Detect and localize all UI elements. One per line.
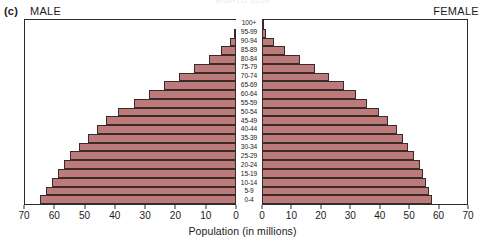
- cropped-top-title: WORLD 2050: [0, 0, 485, 3]
- bar-row: [25, 55, 236, 64]
- bar-row: [262, 38, 467, 47]
- bar-row: [25, 64, 236, 73]
- x-axis-title: Population (in millions): [0, 225, 485, 237]
- female-axis-tick: [291, 205, 292, 209]
- age-group-label: 0-4: [236, 196, 262, 205]
- female-bar: [262, 151, 414, 160]
- male-axis-tick: [236, 205, 237, 209]
- bar-row: [25, 169, 236, 178]
- age-group-label: 20-24: [236, 161, 262, 170]
- bar-row: [262, 55, 467, 64]
- bar-row: [262, 143, 467, 152]
- male-axis-tick-label: 30: [140, 210, 151, 221]
- female-plot-area: [262, 19, 468, 205]
- age-group-label: 35-39: [236, 134, 262, 143]
- bar-row: [262, 160, 467, 169]
- bar-row: [262, 81, 467, 90]
- male-bar: [70, 151, 236, 160]
- male-axis-tick-label: 50: [79, 210, 90, 221]
- figure-panel-letter: (c): [4, 5, 18, 17]
- age-group-label: 75-79: [236, 63, 262, 72]
- bar-row: [262, 187, 467, 196]
- bar-row: [25, 160, 236, 169]
- age-group-label: 40-44: [236, 125, 262, 134]
- female-bar: [262, 29, 266, 38]
- female-axis-tick: [438, 205, 439, 209]
- female-bar: [262, 134, 403, 143]
- female-bar: [262, 64, 315, 73]
- female-axis-tick-label: 20: [315, 210, 326, 221]
- male-bar: [118, 108, 236, 117]
- female-bar: [262, 20, 264, 29]
- female-bar-rows: [262, 20, 467, 204]
- age-group-label: 25-29: [236, 152, 262, 161]
- male-axis-header: MALE: [30, 5, 61, 17]
- bar-row: [262, 64, 467, 73]
- age-group-label: 90-94: [236, 37, 262, 46]
- male-axis-tick: [54, 205, 55, 209]
- female-bar: [262, 46, 285, 55]
- bar-row: [262, 46, 467, 55]
- bar-row: [25, 178, 236, 187]
- bar-row: [25, 29, 236, 38]
- male-axis-tick: [145, 205, 146, 209]
- female-axis-tick: [379, 205, 380, 209]
- bar-row: [25, 187, 236, 196]
- bar-row: [262, 73, 467, 82]
- female-bar: [262, 38, 274, 47]
- age-group-label: 5-9: [236, 187, 262, 196]
- bar-row: [25, 20, 236, 29]
- male-bar: [179, 73, 236, 82]
- male-bar: [97, 125, 236, 134]
- bar-row: [25, 73, 236, 82]
- female-axis-tick-label: 70: [462, 210, 473, 221]
- bar-row: [25, 143, 236, 152]
- female-axis-tick-label: 40: [374, 210, 385, 221]
- male-bar-rows: [25, 20, 236, 204]
- male-bar: [209, 55, 236, 64]
- male-axis-tick-label: 70: [18, 210, 29, 221]
- age-group-label: 95-99: [236, 28, 262, 37]
- bar-row: [262, 29, 467, 38]
- bar-row: [262, 178, 467, 187]
- male-bar: [134, 99, 236, 108]
- male-axis-tick: [24, 205, 25, 209]
- bar-row: [262, 20, 467, 29]
- bar-row: [262, 108, 467, 117]
- female-bar: [262, 125, 397, 134]
- age-group-label: 70-74: [236, 72, 262, 81]
- female-bar: [262, 81, 344, 90]
- female-axis-tick: [262, 205, 263, 209]
- bar-row: [25, 99, 236, 108]
- age-group-label: 30-34: [236, 143, 262, 152]
- age-group-label: 85-89: [236, 46, 262, 55]
- bar-row: [262, 195, 467, 204]
- female-bar: [262, 99, 367, 108]
- male-axis-tick-label: 20: [170, 210, 181, 221]
- male-axis-tick: [114, 205, 115, 209]
- female-axis-tick-label: 0: [259, 210, 265, 221]
- female-bar: [262, 143, 408, 152]
- bar-row: [25, 90, 236, 99]
- age-group-label: 60-64: [236, 90, 262, 99]
- bar-row: [25, 46, 236, 55]
- female-axis-tick-label: 50: [404, 210, 415, 221]
- male-bar: [88, 134, 236, 143]
- male-bar: [40, 195, 236, 204]
- male-axis-tick-label: 10: [200, 210, 211, 221]
- bar-row: [262, 151, 467, 160]
- female-bar: [262, 160, 420, 169]
- female-axis-tick-label: 10: [286, 210, 297, 221]
- female-bar: [262, 116, 388, 125]
- male-bar: [52, 178, 236, 187]
- age-group-label: 100+: [236, 19, 262, 28]
- age-group-label: 15-19: [236, 170, 262, 179]
- bar-row: [262, 169, 467, 178]
- male-axis-tick: [175, 205, 176, 209]
- male-bar: [58, 169, 236, 178]
- bar-row: [25, 151, 236, 160]
- male-axis-tick-label: 60: [49, 210, 60, 221]
- female-bar: [262, 90, 356, 99]
- female-axis-tick: [320, 205, 321, 209]
- age-group-label: 50-54: [236, 108, 262, 117]
